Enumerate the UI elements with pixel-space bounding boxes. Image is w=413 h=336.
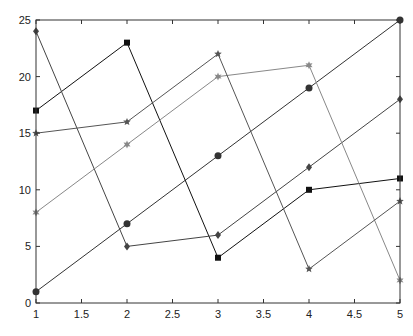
series-4 (33, 61, 404, 284)
x-tick-label: 3 (215, 308, 221, 320)
x-tick-label: 1 (33, 308, 39, 320)
x-tick-label: 1.5 (74, 308, 89, 320)
data-point-marker (124, 40, 130, 46)
data-point-marker (123, 118, 131, 125)
y-tick-label: 20 (19, 71, 31, 83)
x-tick-label: 4.5 (347, 308, 362, 320)
y-tick-label: 5 (25, 240, 31, 252)
series-3 (33, 27, 403, 250)
series-layer (32, 17, 404, 296)
data-point-marker (124, 220, 131, 227)
series-line (36, 65, 400, 280)
axes: 11.522.533.544.550510152025 (19, 14, 403, 320)
data-point-marker (306, 163, 312, 171)
y-tick-label: 15 (19, 127, 31, 139)
y-tick-label: 10 (19, 184, 31, 196)
data-point-marker (215, 152, 222, 159)
data-point-marker (305, 265, 313, 272)
series-line (36, 31, 400, 246)
x-tick-label: 5 (397, 308, 403, 320)
data-point-marker (124, 141, 131, 149)
data-point-marker (215, 231, 221, 239)
y-tick-label: 0 (25, 297, 31, 309)
x-tick-label: 4 (306, 308, 312, 320)
x-tick-label: 2.5 (165, 308, 180, 320)
x-tick-label: 2 (124, 308, 130, 320)
data-point-marker (306, 187, 312, 193)
y-tick-label: 25 (19, 14, 31, 26)
line-chart: 11.522.533.544.550510152025 (0, 0, 413, 336)
data-point-marker (215, 255, 221, 261)
data-point-marker (124, 242, 130, 250)
data-point-marker (306, 84, 313, 91)
x-tick-label: 3.5 (256, 308, 271, 320)
